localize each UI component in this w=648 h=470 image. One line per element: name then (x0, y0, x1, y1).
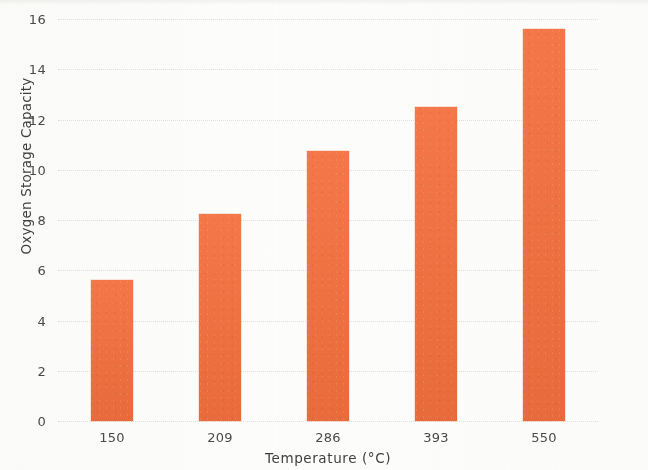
bars-layer (58, 8, 598, 423)
y-tick-label: 0 (37, 414, 46, 429)
y-tick-label: 6 (37, 263, 46, 278)
gridline (58, 69, 598, 71)
bar (415, 107, 457, 421)
x-tick-label: 209 (207, 430, 233, 445)
x-tick-label: 393 (423, 430, 449, 445)
bar-chart-figure: 0246810121416 150209286393550 Oxygen Sto… (0, 0, 648, 470)
x-tick-label: 550 (531, 430, 557, 445)
gridline (58, 120, 598, 122)
x-axis-tick-labels: 150209286393550 (58, 430, 598, 452)
y-tick-label: 2 (37, 363, 46, 378)
plot-area (58, 8, 598, 423)
y-tick-label: 8 (37, 213, 46, 228)
bar (199, 214, 241, 421)
source-reference-note: Based on Ref. [10-23]. (631, 464, 646, 470)
x-tick-label: 150 (99, 430, 125, 445)
x-axis-title: Temperature (°C) (58, 450, 598, 466)
y-tick-label: 4 (37, 313, 46, 328)
y-axis-title: Oxygen Storage Capacity (18, 66, 34, 266)
gridline (58, 19, 598, 21)
x-tick-label: 286 (315, 430, 341, 445)
bar (91, 280, 133, 421)
bar (523, 29, 565, 421)
bar (307, 151, 349, 421)
y-tick-label: 16 (29, 12, 46, 27)
gridline (58, 421, 598, 423)
